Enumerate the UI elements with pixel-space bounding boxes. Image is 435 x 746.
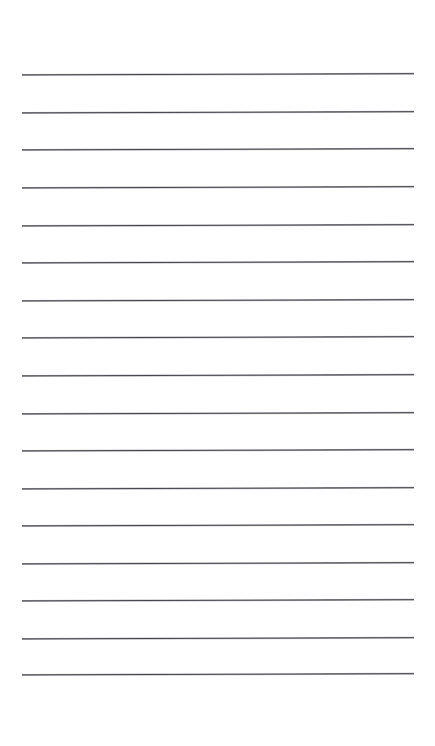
text-line[interactable]: [22, 463, 414, 489]
text-line[interactable]: [22, 237, 414, 263]
text-line[interactable]: [22, 538, 414, 564]
text-line[interactable]: [22, 649, 414, 675]
text-line[interactable]: [22, 350, 414, 376]
ruled-paper-page: [0, 0, 435, 746]
text-line[interactable]: [22, 575, 414, 601]
text-line[interactable]: [22, 500, 414, 526]
text-line[interactable]: [22, 425, 414, 451]
text-line[interactable]: [22, 388, 414, 414]
text-line[interactable]: [22, 162, 414, 188]
text-line[interactable]: [22, 87, 414, 113]
text-line[interactable]: [22, 613, 414, 639]
text-line[interactable]: [22, 312, 414, 338]
writing-area[interactable]: [22, 75, 414, 675]
text-line[interactable]: [22, 200, 414, 226]
text-line[interactable]: [22, 275, 414, 301]
text-line[interactable]: [22, 124, 414, 150]
text-line[interactable]: [22, 49, 414, 75]
